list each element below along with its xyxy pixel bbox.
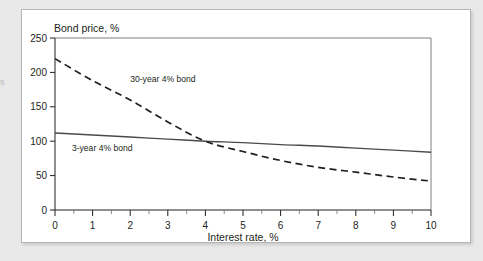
x-axis-tick-labels: 0 1 2 3 4 5 6 7 8 9 10	[52, 220, 437, 231]
x-tick-label: 9	[391, 220, 397, 231]
y-axis-title: Bond price, %	[54, 22, 119, 34]
x-axis-title: Interest rate, %	[207, 231, 278, 242]
series-label-3-year-bond: 3-year 4% bond	[72, 143, 133, 153]
series-line-30-year-bond	[55, 59, 431, 181]
plot-frame	[55, 38, 431, 210]
figure-panel: Bond price, % 250 200 150 100 50 0	[21, 9, 471, 243]
x-tick-label: 8	[353, 220, 359, 231]
x-tick-label: 4	[203, 220, 209, 231]
y-tick-label: 150	[30, 101, 47, 112]
x-tick-label: 3	[165, 220, 171, 231]
page-margin-text-fragment: s	[0, 74, 12, 90]
y-tick-label: 0	[41, 205, 47, 216]
y-tick-label: 250	[30, 33, 47, 44]
x-tick-label: 5	[240, 220, 246, 231]
y-axis-tick-labels: 250 200 150 100 50 0	[30, 33, 47, 216]
x-tick-label: 1	[90, 220, 96, 231]
y-tick-label: 200	[30, 67, 47, 78]
x-tick-label: 0	[52, 220, 58, 231]
y-axis-ticks	[50, 38, 55, 210]
series-label-30-year-bond: 30-year 4% bond	[130, 74, 196, 84]
x-tick-label: 6	[278, 220, 284, 231]
bond-price-line-chart: Bond price, % 250 200 150 100 50 0	[22, 10, 470, 242]
x-tick-label: 2	[127, 220, 133, 231]
x-tick-label: 7	[315, 220, 321, 231]
x-tick-label: 10	[425, 220, 437, 231]
y-tick-label: 100	[30, 136, 47, 147]
y-tick-label: 50	[36, 170, 48, 181]
